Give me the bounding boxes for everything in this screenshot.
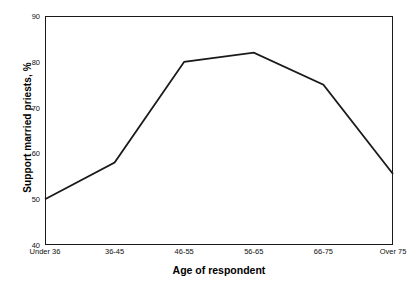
x-tick-label-56-65: 56-65 <box>244 247 263 256</box>
data-series-layer <box>0 0 419 292</box>
line-chart: Support married priests, % 405060708090 … <box>0 0 419 292</box>
x-tick-label-66-75: 66-75 <box>314 247 333 256</box>
x-tick-label-over-75: Over 75 <box>380 247 407 256</box>
x-axis-title: Age of respondent <box>45 264 393 276</box>
x-tick-label-36-45: 36-45 <box>105 247 124 256</box>
x-tick-label-under-36: Under 36 <box>30 247 61 256</box>
x-tick-label-46-55: 46-55 <box>175 247 194 256</box>
data-line-support-married-priests <box>45 53 393 200</box>
